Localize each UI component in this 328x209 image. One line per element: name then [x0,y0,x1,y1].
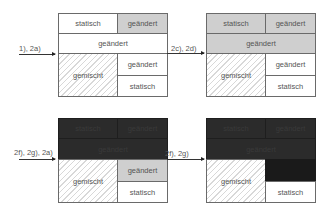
cell-changed-small: geändert [117,53,168,76]
cell-changed-wide: geändert [58,138,168,160]
cell-mixed: gemischt [206,53,266,97]
cell-static: statisch [206,13,266,34]
cell-mixed: gemischt [58,53,118,97]
cell-changed-wide: geändert [206,138,316,160]
arrow-label-2: 2c), 2d) [171,44,196,53]
cell-changed-small: geändert [265,159,316,182]
cell-static-small: statisch [117,181,168,203]
cell-static-small: statisch [265,181,316,203]
state-box-2: statisch geändert geändert gemischt geän… [206,13,315,97]
state-box-3: statisch geändert geändert gemischt geän… [58,118,167,202]
cell-changed-small: geändert [265,53,316,76]
cell-static: statisch [58,13,118,34]
cell-static: statisch [58,118,118,139]
arrow-1 [19,54,55,55]
cell-static-small: statisch [117,75,168,97]
arrow-4 [167,159,204,160]
cell-mixed: gemischt [58,159,118,203]
cell-changed: geändert [117,118,168,139]
cell-changed: geändert [265,13,316,34]
state-box-1: statisch geändert geändert gemischt geän… [58,13,167,97]
cell-changed-small: geändert [117,159,168,182]
cell-changed: geändert [265,118,316,139]
cell-changed-wide: geändert [58,33,168,54]
arrow-label-1: 1), 2a) [19,44,41,53]
arrow-label-4: 2f), 2g) [165,149,189,158]
state-box-4: statisch geändert geändert gemischt geän… [206,118,315,202]
arrow-label-3: 2f), 2g), 2a) [14,148,53,157]
cell-static-small: statisch [265,75,316,97]
arrow-2 [167,53,204,54]
cell-changed-wide: geändert [206,33,316,54]
cell-changed: geändert [117,13,168,34]
cell-mixed: gemischt [206,159,266,203]
cell-static: statisch [206,118,266,139]
arrow-3 [19,159,55,160]
